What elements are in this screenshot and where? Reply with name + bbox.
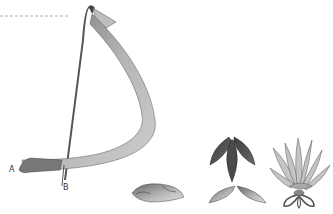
label-b: B (63, 183, 69, 192)
petal-trio-step (210, 137, 255, 182)
petal-pair-step (209, 186, 266, 203)
finished-flower-step (270, 138, 330, 208)
ribbon-fold-step (19, 5, 155, 186)
folding-diagram: A B (0, 0, 333, 214)
label-a: A (9, 165, 15, 174)
single-petal-step (132, 184, 184, 202)
